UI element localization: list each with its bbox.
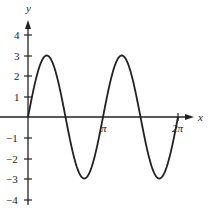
y-tick-label-neg2: −2: [6, 153, 18, 165]
y-axis-label: y: [25, 2, 31, 14]
y-axis-arrow-icon: [25, 20, 31, 29]
x-axis-arrow-icon: [185, 114, 194, 120]
y-tick-label-neg1: −1: [6, 132, 18, 144]
y-tick-label-neg3: −3: [6, 173, 18, 185]
x-tick-label-2pi: 2π: [172, 122, 184, 134]
y-tick-label-neg4: −4: [6, 194, 18, 206]
y-tick-label-4: 4: [14, 29, 20, 41]
sine-graph: 4 3 2 1 −1 −2 −3 −4 π 2π y x: [0, 0, 215, 217]
y-tick-label-3: 3: [14, 50, 20, 62]
y-tick-label-2: 2: [14, 70, 20, 82]
x-axis-label: x: [197, 111, 203, 123]
y-tick-label-1: 1: [14, 91, 20, 103]
